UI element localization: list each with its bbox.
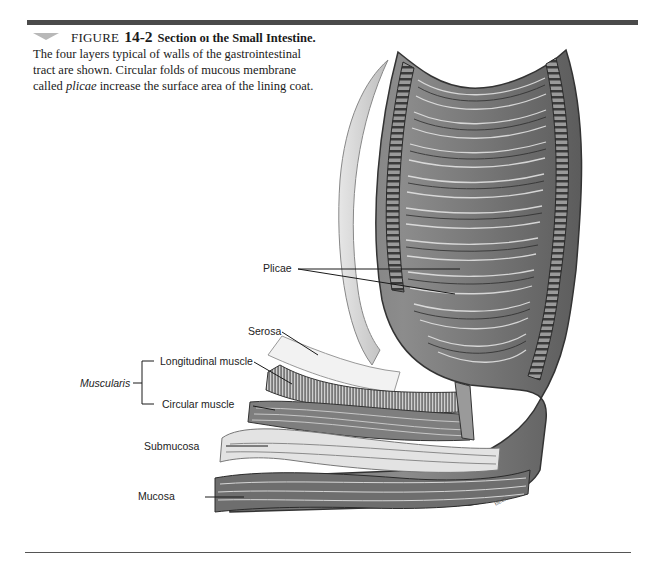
label-circular-muscle: Circular muscle (162, 398, 234, 410)
label-mucosa: Mucosa (138, 490, 175, 502)
label-longitudinal-muscle: Longitudinal muscle (160, 355, 253, 367)
bottom-rule (25, 552, 631, 553)
label-muscularis: Muscularis (80, 377, 130, 389)
label-submucosa: Submucosa (144, 440, 199, 452)
label-plicae: Plicae (263, 262, 292, 274)
label-serosa: Serosa (248, 325, 281, 337)
small-intestine-illustration (0, 0, 655, 564)
